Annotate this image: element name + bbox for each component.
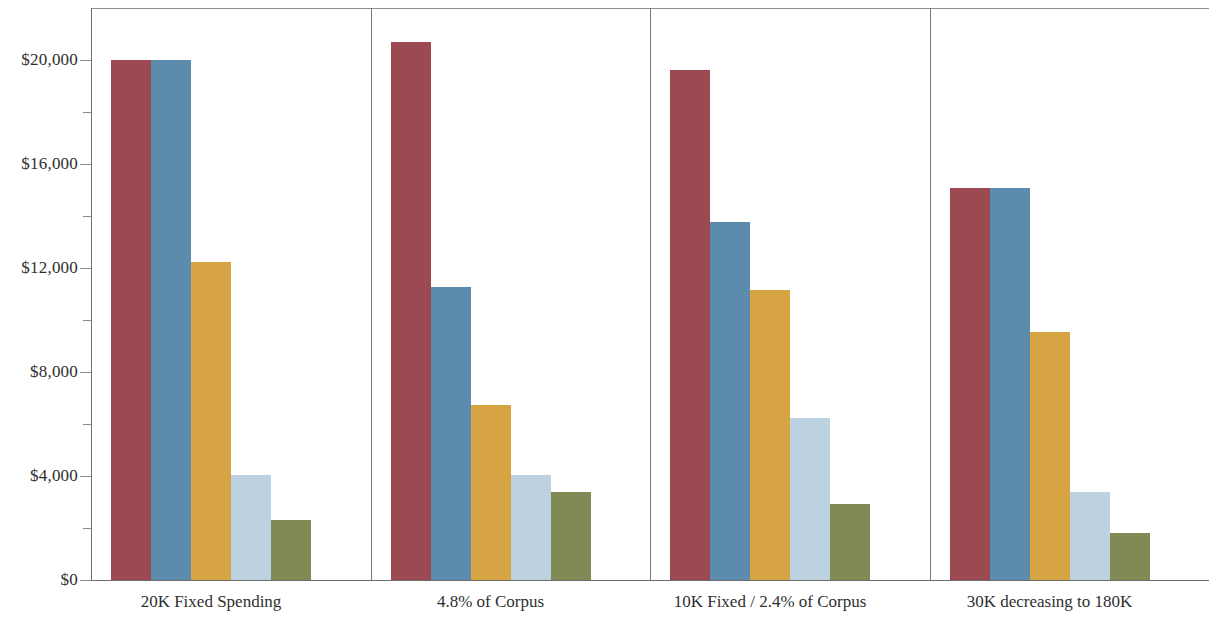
y-axis-tick-mark xyxy=(80,372,91,373)
y-axis-tick-label: $8,000 xyxy=(30,362,78,382)
y-axis-minor-tick-mark xyxy=(83,216,91,217)
group-divider xyxy=(650,8,651,580)
bar-chart: $0$4,000$8,000$12,000$16,000$20,000 20K … xyxy=(0,0,1217,622)
y-axis-minor-tick-mark xyxy=(83,112,91,113)
y-axis-tick-mark xyxy=(80,60,91,61)
y-axis-tick-mark xyxy=(80,164,91,165)
bar xyxy=(790,418,830,580)
bar xyxy=(1030,332,1070,580)
bar xyxy=(511,475,551,580)
y-axis-tick-mark xyxy=(80,476,91,477)
x-axis-category-label: 10K Fixed / 2.4% of Corpus xyxy=(674,592,867,612)
y-axis-tick-label: $20,000 xyxy=(21,50,78,70)
bar xyxy=(750,290,790,580)
y-axis-labels: $0$4,000$8,000$12,000$16,000$20,000 xyxy=(0,0,78,622)
y-axis-minor-tick-mark xyxy=(83,320,91,321)
bar xyxy=(1070,492,1110,580)
bar xyxy=(1110,533,1150,580)
y-axis-tick-label: $0 xyxy=(61,570,78,590)
bar xyxy=(111,60,151,580)
bar xyxy=(391,42,431,580)
bar xyxy=(990,188,1030,580)
bar xyxy=(830,504,870,580)
y-axis-tick-mark xyxy=(80,268,91,269)
group-divider xyxy=(371,8,372,580)
bar xyxy=(191,262,231,581)
y-axis-tick-label: $12,000 xyxy=(21,258,78,278)
bar xyxy=(471,405,511,580)
x-axis-category-label: 4.8% of Corpus xyxy=(437,592,544,612)
bar xyxy=(431,287,471,580)
bar xyxy=(271,520,311,580)
group-divider xyxy=(930,8,931,580)
x-axis-line xyxy=(91,580,1209,581)
bar xyxy=(551,492,591,580)
bar xyxy=(151,60,191,580)
bar xyxy=(950,188,990,580)
y-axis-minor-tick-mark xyxy=(83,424,91,425)
y-axis-minor-tick-mark xyxy=(83,528,91,529)
bar xyxy=(231,475,271,580)
y-axis-tick-label: $4,000 xyxy=(30,466,78,486)
y-axis-tick-label: $16,000 xyxy=(21,154,78,174)
x-axis-category-label: 30K decreasing to 180K xyxy=(967,592,1133,612)
x-axis-category-label: 20K Fixed Spending xyxy=(141,592,282,612)
bar xyxy=(710,222,750,580)
bar xyxy=(670,70,710,580)
y-axis-tick-mark xyxy=(80,580,91,581)
